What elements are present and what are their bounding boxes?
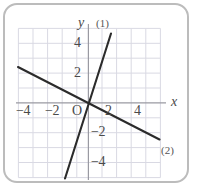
x-tick-neg4: −4 <box>16 104 30 118</box>
y-tick-neg2: −2 <box>91 125 105 139</box>
y-tick-pos2: 2 <box>74 66 81 80</box>
y-axis-label: y <box>78 16 84 30</box>
x-tick-pos4: 4 <box>134 104 141 118</box>
y-tick-pos4: 4 <box>74 36 81 50</box>
origin-label: O <box>72 104 82 118</box>
line-two-tag-label: (2) <box>161 145 174 156</box>
y-tick-neg4: −4 <box>91 155 105 169</box>
x-axis-label: x <box>171 95 177 109</box>
x-tick-pos2: 2 <box>105 104 112 118</box>
x-tick-neg2: −2 <box>45 104 59 118</box>
line-one-tag-label: (1) <box>96 18 109 29</box>
coordinate-plane-graph: y (1) x (2) O −4 −2 2 4 4 2 −2 −4 <box>0 0 198 192</box>
